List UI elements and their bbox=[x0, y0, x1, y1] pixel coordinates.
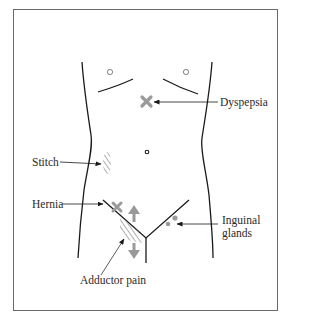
label-dyspepsia: Dyspepsia bbox=[220, 96, 268, 109]
right-costal-margin bbox=[163, 79, 198, 94]
label-inguinal-line2: glands bbox=[222, 227, 252, 240]
navel bbox=[145, 150, 149, 154]
label-adductor-pain: Adductor pain bbox=[80, 274, 146, 287]
adductor-hatched-region bbox=[120, 216, 142, 243]
stitch-leader bbox=[60, 162, 101, 164]
left-flank-outline bbox=[78, 62, 91, 258]
inguinal-glands-dots-icon bbox=[166, 215, 178, 226]
right-nipple bbox=[183, 69, 188, 74]
label-stitch: Stitch bbox=[32, 156, 59, 169]
left-costal-margin bbox=[98, 79, 133, 92]
stitch-hatched-region bbox=[103, 152, 111, 174]
left-nipple bbox=[107, 69, 112, 74]
dyspepsia-x-icon bbox=[142, 97, 151, 106]
arrow-up-icon bbox=[128, 205, 140, 222]
arrow-down-icon bbox=[128, 243, 140, 259]
adductor-leader bbox=[101, 239, 124, 275]
right-flank-outline bbox=[202, 62, 213, 258]
label-inguinal-line1: Inguinal bbox=[222, 214, 260, 227]
label-hernia: Hernia bbox=[32, 198, 63, 211]
hernia-x-icon bbox=[113, 203, 121, 211]
